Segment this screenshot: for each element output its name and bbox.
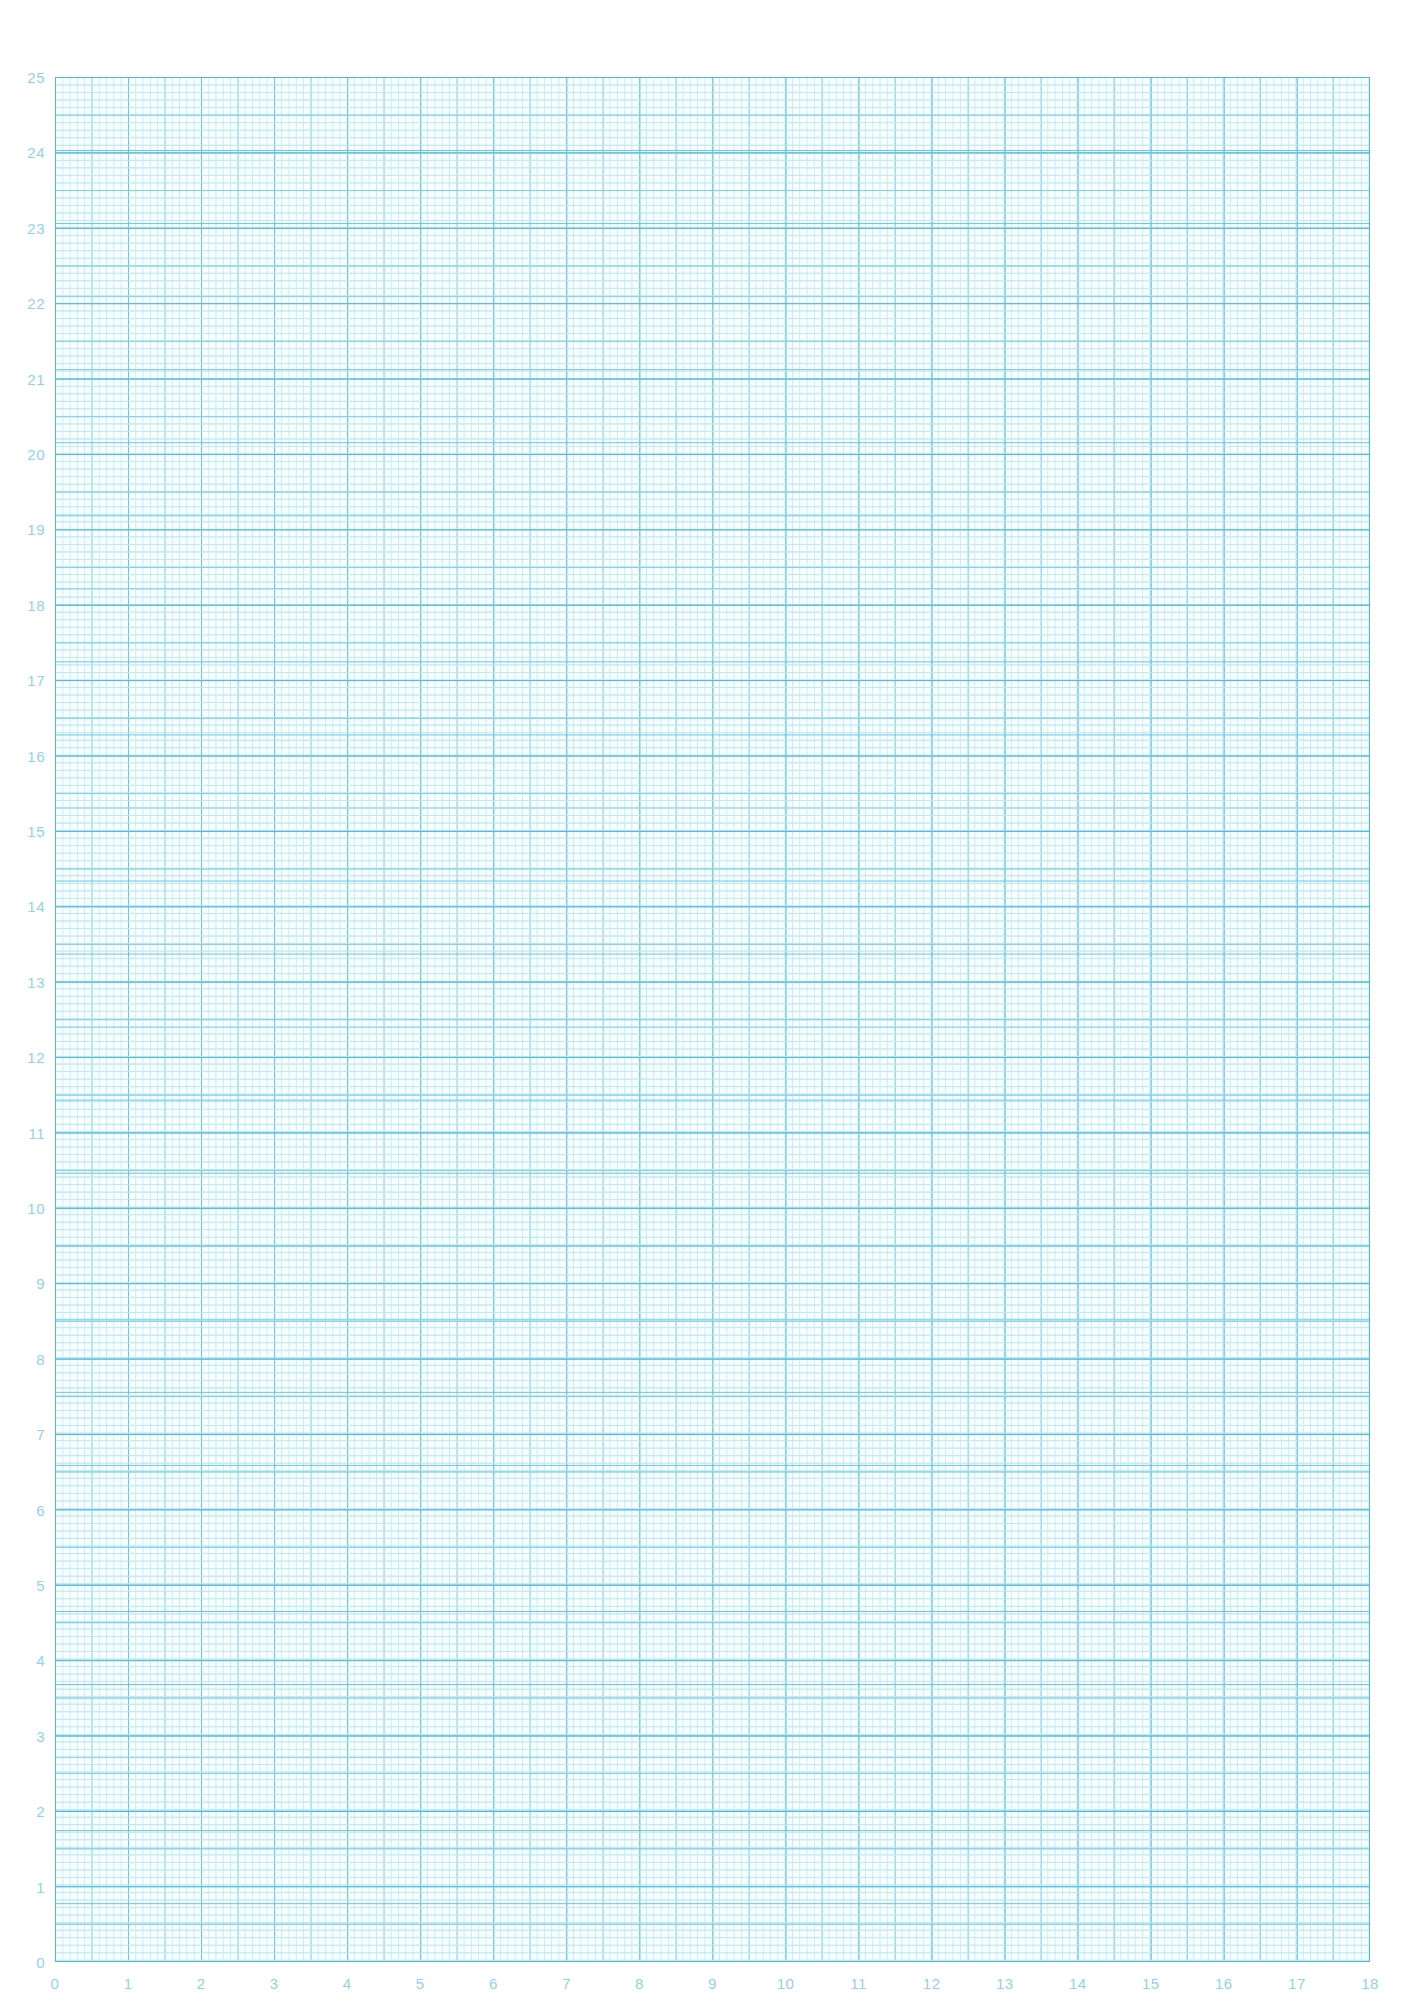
y-axis-tick-2: 2 [36, 1803, 45, 1820]
x-axis-tick-11: 11 [850, 1975, 867, 1992]
y-axis-tick-6: 6 [36, 1501, 45, 1518]
x-axis-tick-2: 2 [197, 1975, 206, 1992]
x-axis-tick-0: 0 [51, 1975, 60, 1992]
paper-tint-overlay [55, 77, 1370, 1962]
graph-paper-sheet: 0123456789101112131415161718192021222324… [0, 0, 1414, 2009]
y-axis-tick-4: 4 [36, 1652, 45, 1669]
y-axis-tick-3: 3 [36, 1727, 45, 1744]
x-axis-tick-5: 5 [416, 1975, 425, 1992]
y-axis-tick-15: 15 [27, 823, 45, 840]
y-axis-tick-12: 12 [27, 1049, 45, 1066]
y-axis-tick-10: 10 [27, 1200, 45, 1217]
y-axis-tick-5: 5 [36, 1577, 45, 1594]
y-axis-tick-24: 24 [27, 144, 45, 161]
y-axis-tick-22: 22 [27, 295, 45, 312]
x-axis-tick-9: 9 [708, 1975, 717, 1992]
x-axis-tick-12: 12 [923, 1975, 941, 1992]
y-axis-tick-19: 19 [27, 521, 45, 538]
y-axis-tick-18: 18 [27, 596, 45, 613]
x-axis-tick-1: 1 [124, 1975, 133, 1992]
x-axis-tick-6: 6 [489, 1975, 498, 1992]
x-axis-tick-4: 4 [343, 1975, 352, 1992]
x-axis-tick-18: 18 [1361, 1975, 1379, 1992]
y-axis-tick-21: 21 [27, 370, 45, 387]
x-axis-tick-10: 10 [777, 1975, 795, 1992]
y-axis-tick-14: 14 [27, 898, 45, 915]
y-axis-tick-25: 25 [27, 69, 45, 86]
y-axis-tick-13: 13 [27, 973, 45, 990]
graph-grid-area[interactable] [55, 77, 1370, 1962]
x-axis-tick-7: 7 [562, 1975, 571, 1992]
x-axis-tick-15: 15 [1142, 1975, 1160, 1992]
grid-horizontal-lines [55, 77, 1370, 1962]
y-axis-tick-23: 23 [27, 219, 45, 236]
x-axis-tick-17: 17 [1288, 1975, 1306, 1992]
x-axis-tick-16: 16 [1215, 1975, 1233, 1992]
x-axis-tick-14: 14 [1069, 1975, 1087, 1992]
y-axis-tick-20: 20 [27, 446, 45, 463]
y-axis-tick-8: 8 [36, 1350, 45, 1367]
y-axis-tick-11: 11 [28, 1124, 45, 1141]
x-axis-tick-13: 13 [996, 1975, 1014, 1992]
y-axis-tick-16: 16 [27, 747, 45, 764]
y-axis-tick-17: 17 [27, 672, 45, 689]
y-axis-tick-1: 1 [36, 1878, 45, 1895]
y-axis-tick-9: 9 [36, 1275, 45, 1292]
x-axis-tick-3: 3 [270, 1975, 279, 1992]
y-axis-tick-7: 7 [36, 1426, 45, 1443]
x-axis-tick-8: 8 [635, 1975, 644, 1992]
y-axis-tick-0: 0 [36, 1954, 45, 1971]
grid-border [55, 77, 1370, 1962]
